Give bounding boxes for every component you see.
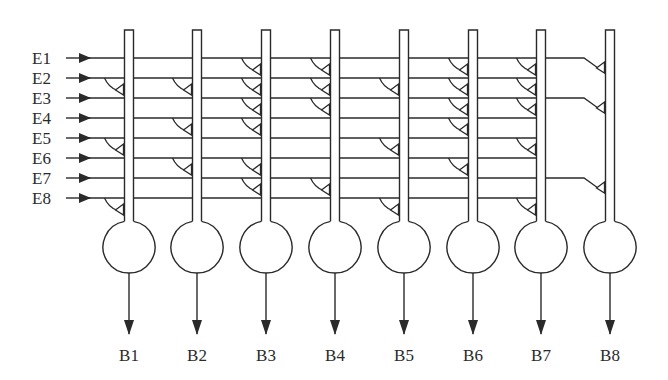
synapse-arc (173, 118, 185, 130)
synapse-triangle-icon (391, 204, 399, 215)
synapse-arc (311, 178, 323, 190)
synapse-arc (311, 78, 323, 90)
output-label: B2 (187, 346, 207, 365)
synapse-arc (242, 98, 254, 110)
input-label: E6 (32, 149, 51, 168)
neuron-axon-bar (125, 30, 134, 221)
synapse-triangle-icon (460, 124, 468, 135)
synapse-triangle-icon (322, 104, 330, 115)
bent-input-line (546, 58, 599, 68)
synapse-arc (173, 158, 185, 170)
output-arrow-icon (330, 320, 340, 335)
synapse-triangle-icon (253, 124, 261, 135)
synapse-triangle-icon (460, 64, 468, 75)
synapse-arc (449, 118, 461, 130)
synapses (105, 58, 605, 215)
synapse-arc (517, 78, 529, 90)
synapse-triangle-icon (253, 164, 261, 175)
output-label: B1 (119, 346, 139, 365)
output-arrow-icon (192, 320, 202, 335)
output-arrow-icon (468, 320, 478, 335)
synapse-triangle-icon (391, 84, 399, 95)
synapse-triangle-icon (116, 144, 124, 155)
synapse-arc (449, 58, 461, 70)
synapse-triangle-icon (184, 164, 192, 175)
synapse-triangle-icon (460, 164, 468, 175)
neuron-body-circle (309, 221, 361, 273)
synapse-arc (449, 78, 461, 90)
synapse-triangle-icon (253, 64, 261, 75)
synapse-arc (105, 198, 117, 210)
output-arrow-icon (605, 320, 615, 335)
output-arrow-icon (536, 320, 546, 335)
output-label: B7 (531, 346, 551, 365)
synapse-triangle-icon (116, 204, 124, 215)
synapse-triangle-icon (322, 64, 330, 75)
neuron-axon-bar (606, 30, 615, 221)
synapse-arc (242, 58, 254, 70)
output-neurons (103, 30, 636, 335)
neuron-body-circle (240, 221, 292, 273)
synapse-triangle-icon (253, 184, 261, 195)
neuron-body-circle (171, 221, 223, 273)
bent-input-line (546, 178, 599, 188)
input-label: E2 (32, 69, 51, 88)
output-label: B8 (600, 346, 620, 365)
output-label: B3 (256, 346, 276, 365)
neuron-axon-bar (331, 30, 340, 221)
synapse-arc (517, 98, 529, 110)
synapse-arc (105, 138, 117, 150)
input-label: E3 (32, 89, 51, 108)
output-label: B5 (394, 346, 414, 365)
synapse-arc (517, 58, 529, 70)
neuron-axon-bar (537, 30, 546, 221)
input-label: E7 (32, 169, 51, 188)
output-label: B4 (325, 346, 345, 365)
synapse-triangle-icon (528, 204, 536, 215)
synapse-triangle-icon (253, 84, 261, 95)
synapse-arc (173, 78, 185, 90)
synapse-triangle-icon (528, 104, 536, 115)
synapse-triangle-icon (597, 102, 605, 113)
synapse-arc (449, 158, 461, 170)
synapse-triangle-icon (116, 84, 124, 95)
neuron-axon-bar (400, 30, 409, 221)
synapse-triangle-icon (253, 104, 261, 115)
input-label: E1 (32, 49, 51, 68)
neuron-axon-bar (262, 30, 271, 221)
synapse-triangle-icon (184, 124, 192, 135)
synapse-arc (517, 138, 529, 150)
synapse-triangle-icon (597, 182, 605, 193)
synapse-arc (311, 58, 323, 70)
synapse-triangle-icon (184, 84, 192, 95)
output-arrow-icon (124, 320, 134, 335)
neuron-body-circle (103, 221, 155, 273)
neuron-axon-bar (193, 30, 202, 221)
input-arrows (66, 58, 90, 198)
output-labels: B1B2B3B4B5B6B7B8 (119, 346, 620, 365)
input-label: E5 (32, 129, 51, 148)
synapse-arc (242, 178, 254, 190)
input-lines (88, 58, 598, 198)
synapse-triangle-icon (528, 64, 536, 75)
synapse-matrix-diagram: E1E2E3E4E5E6E7E8 B1B2B3B4B5B6B7B8 (0, 0, 668, 380)
output-arrow-icon (261, 320, 271, 335)
synapse-arc (105, 78, 117, 90)
output-label: B6 (463, 346, 483, 365)
synapse-triangle-icon (528, 84, 536, 95)
synapse-arc (449, 98, 461, 110)
synapse-arc (311, 98, 323, 110)
synapse-arc (242, 78, 254, 90)
synapse-arc (242, 118, 254, 130)
input-label: E4 (32, 109, 51, 128)
synapse-arc (380, 198, 392, 210)
synapse-triangle-icon (528, 144, 536, 155)
synapse-triangle-icon (460, 104, 468, 115)
neuron-body-circle (515, 221, 567, 273)
synapse-triangle-icon (322, 184, 330, 195)
synapse-triangle-icon (597, 62, 605, 73)
synapse-triangle-icon (460, 84, 468, 95)
synapse-arc (380, 138, 392, 150)
neuron-axon-bar (469, 30, 478, 221)
synapse-arc (242, 158, 254, 170)
